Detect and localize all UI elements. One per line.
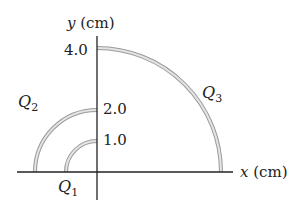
arc-q1 bbox=[66, 141, 97, 172]
y-axis-label: y (cm) bbox=[66, 14, 115, 32]
label-q1: Q1 bbox=[58, 177, 78, 199]
tick-label-2: 2.0 bbox=[103, 100, 127, 118]
tick-label-1: 1.0 bbox=[103, 131, 127, 149]
tick-label-4: 4.0 bbox=[64, 41, 88, 59]
x-axis-label: x (cm) bbox=[240, 163, 288, 181]
charge-arc-diagram: y (cm) x (cm) 4.0 2.0 1.0 Q2 Q1 Q3 bbox=[0, 0, 308, 208]
label-q3: Q3 bbox=[202, 83, 222, 105]
label-q2: Q2 bbox=[18, 92, 38, 114]
